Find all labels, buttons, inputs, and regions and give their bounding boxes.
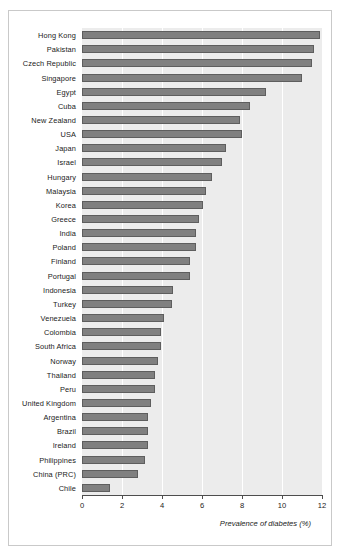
bar-rows: Hong KongPakistanCzech RepublicSingapore… bbox=[0, 28, 342, 495]
category-label: Hungary bbox=[47, 172, 76, 181]
bar-row: Turkey bbox=[0, 297, 342, 311]
x-tick bbox=[242, 495, 243, 499]
bar-row: Pakistan bbox=[0, 42, 342, 56]
x-axis-title: Prevalence of diabetes (%) bbox=[220, 519, 311, 528]
bar-row: USA bbox=[0, 127, 342, 141]
x-tick bbox=[122, 495, 123, 499]
category-label: Israel bbox=[57, 158, 76, 167]
bar bbox=[82, 456, 145, 464]
bar-row: Chile bbox=[0, 481, 342, 495]
category-label: Singapore bbox=[41, 73, 76, 82]
bar-row: Malaysia bbox=[0, 184, 342, 198]
bar bbox=[82, 173, 212, 181]
x-tick-label: 4 bbox=[160, 501, 164, 510]
bar-row: Cuba bbox=[0, 99, 342, 113]
category-label: Cuba bbox=[58, 101, 76, 110]
category-label: Portugal bbox=[48, 271, 76, 280]
x-tick-label: 10 bbox=[278, 501, 286, 510]
bar bbox=[82, 215, 199, 223]
category-label: Egypt bbox=[57, 87, 76, 96]
bar bbox=[82, 470, 138, 478]
bar bbox=[82, 413, 148, 421]
category-label: Pakistan bbox=[47, 45, 76, 54]
bar-row: Thailand bbox=[0, 368, 342, 382]
bar-row: Egypt bbox=[0, 85, 342, 99]
x-tick bbox=[162, 495, 163, 499]
bar-row: Indonesia bbox=[0, 283, 342, 297]
bar bbox=[82, 130, 242, 138]
category-label: Peru bbox=[60, 384, 76, 393]
category-label: Korea bbox=[56, 200, 76, 209]
category-label: India bbox=[59, 229, 76, 238]
x-tick bbox=[202, 495, 203, 499]
bar-row: Portugal bbox=[0, 269, 342, 283]
bar bbox=[82, 116, 240, 124]
category-label: Finland bbox=[51, 257, 76, 266]
bar bbox=[82, 399, 151, 407]
bar bbox=[82, 342, 161, 350]
bar-row: Finland bbox=[0, 254, 342, 268]
bar-row: Venezuela bbox=[0, 311, 342, 325]
x-tick bbox=[322, 495, 323, 499]
category-label: New Zealand bbox=[31, 115, 76, 124]
bar-row: China (PRC) bbox=[0, 467, 342, 481]
category-label: Greece bbox=[51, 215, 76, 224]
bar bbox=[82, 272, 190, 280]
bar-row: Ireland bbox=[0, 438, 342, 452]
bar bbox=[82, 88, 266, 96]
category-label: Hong Kong bbox=[38, 31, 76, 40]
bar bbox=[82, 31, 320, 39]
bar-row: Hungary bbox=[0, 170, 342, 184]
bar-row: New Zealand bbox=[0, 113, 342, 127]
bar bbox=[82, 59, 312, 67]
bar-row: Norway bbox=[0, 353, 342, 367]
bar bbox=[82, 102, 250, 110]
bar-row: Peru bbox=[0, 382, 342, 396]
bar bbox=[82, 441, 148, 449]
category-label: USA bbox=[61, 130, 77, 139]
bar-row: India bbox=[0, 226, 342, 240]
category-label: Turkey bbox=[53, 299, 76, 308]
category-label: Chile bbox=[59, 483, 76, 492]
category-label: Indonesia bbox=[43, 285, 76, 294]
x-tick-label: 8 bbox=[240, 501, 244, 510]
bar bbox=[82, 144, 226, 152]
bar bbox=[82, 201, 203, 209]
bar-row: Philippines bbox=[0, 453, 342, 467]
category-label: China (PRC) bbox=[33, 469, 76, 478]
bar-row: Japan bbox=[0, 141, 342, 155]
bar bbox=[82, 484, 110, 492]
bar-row: Colombia bbox=[0, 325, 342, 339]
category-label: Poland bbox=[52, 243, 76, 252]
category-label: United Kingdom bbox=[22, 399, 76, 408]
bar-row: Poland bbox=[0, 240, 342, 254]
x-tick-label: 0 bbox=[80, 501, 84, 510]
category-label: South Africa bbox=[35, 342, 76, 351]
bar bbox=[82, 74, 302, 82]
bar bbox=[82, 257, 190, 265]
category-label: Brazil bbox=[57, 427, 76, 436]
bar bbox=[82, 427, 148, 435]
bar-row: Argentina bbox=[0, 410, 342, 424]
category-label: Venezuela bbox=[41, 314, 76, 323]
bar bbox=[82, 158, 222, 166]
bar bbox=[82, 328, 161, 336]
bar bbox=[82, 187, 206, 195]
category-label: Czech Republic bbox=[23, 59, 76, 68]
x-tick bbox=[82, 495, 83, 499]
bar bbox=[82, 385, 155, 393]
bar-row: Brazil bbox=[0, 424, 342, 438]
bar bbox=[82, 300, 172, 308]
x-tick-label: 2 bbox=[120, 501, 124, 510]
bar-row: Korea bbox=[0, 198, 342, 212]
x-tick bbox=[282, 495, 283, 499]
bar bbox=[82, 371, 155, 379]
x-tick-label: 6 bbox=[200, 501, 204, 510]
figure-frame: Hong KongPakistanCzech RepublicSingapore… bbox=[8, 10, 332, 546]
bar bbox=[82, 314, 164, 322]
bar bbox=[82, 45, 314, 53]
bar-row: Singapore bbox=[0, 70, 342, 84]
bar bbox=[82, 243, 196, 251]
bar-row: United Kingdom bbox=[0, 396, 342, 410]
bar bbox=[82, 229, 196, 237]
